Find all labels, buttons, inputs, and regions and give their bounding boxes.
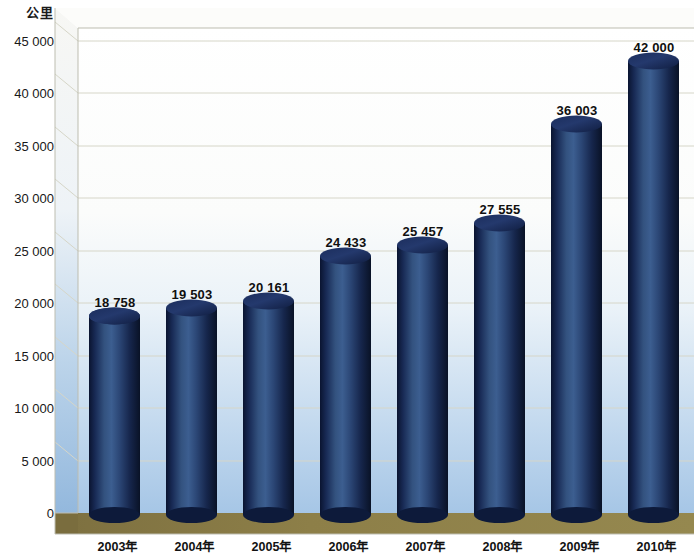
y-tick-25000: 25 000 — [2, 244, 54, 259]
data-label-2008: 27 555 — [480, 202, 521, 217]
data-label-2009: 36 003 — [557, 103, 598, 118]
y-tick-20000: 20 000 — [2, 296, 54, 311]
x-tick-2004: 2004年 — [175, 536, 216, 555]
x-tick-2006: 2006年 — [329, 536, 370, 555]
data-label-2005: 20 161 — [249, 280, 290, 295]
y-tick-40000: 40 000 — [2, 86, 54, 101]
y-tick-45000: 45 000 — [2, 34, 54, 49]
bar-2006 — [320, 248, 371, 524]
y-tick-35000: 35 000 — [2, 139, 54, 154]
y-axis: 45 000 40 000 35 000 30 000 25 000 20 00… — [0, 0, 54, 549]
bar-2003 — [89, 308, 140, 524]
y-tick-0: 0 — [2, 506, 54, 521]
floor-front-edge — [55, 513, 78, 534]
x-tick-2008: 2008年 — [483, 536, 524, 555]
x-tick-2003: 2003年 — [98, 536, 139, 555]
x-tick-2010: 2010年 — [637, 536, 678, 555]
y-tick-15000: 15 000 — [2, 349, 54, 364]
y-tick-30000: 30 000 — [2, 191, 54, 206]
bar-2004 — [166, 300, 217, 524]
ceiling-panel — [55, 8, 694, 28]
bar-2005 — [243, 293, 294, 524]
bar-2008 — [474, 215, 525, 524]
data-label-2003: 18 758 — [95, 295, 136, 310]
data-label-2004: 19 503 — [172, 287, 213, 302]
data-label-2006: 24 433 — [326, 235, 367, 250]
x-tick-2005: 2005年 — [252, 536, 293, 555]
data-label-2010: 42 000 — [634, 40, 675, 55]
bar-2009 — [551, 116, 602, 524]
y-tick-10000: 10 000 — [2, 401, 54, 416]
y-tick-5000: 5 000 — [2, 454, 54, 469]
x-tick-2009: 2009年 — [560, 536, 601, 555]
bar-2010 — [628, 53, 679, 524]
x-tick-2007: 2007年 — [406, 536, 447, 555]
bar-2007 — [397, 237, 448, 524]
data-label-2007: 25 457 — [403, 224, 444, 239]
